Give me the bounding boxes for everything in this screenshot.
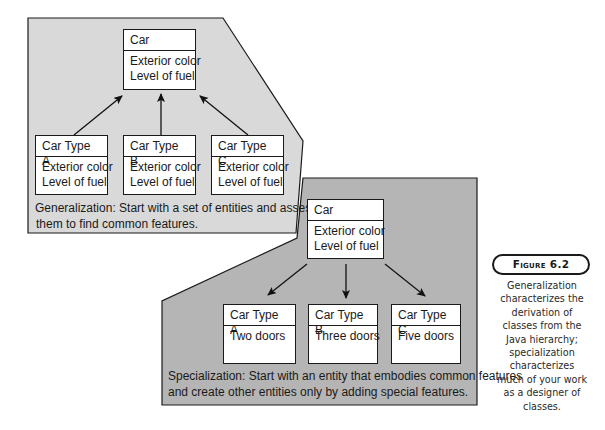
specialization-caption: Specialization: Start with an entity tha… bbox=[168, 369, 522, 400]
description-line: as a designer of bbox=[486, 386, 598, 399]
class-attribute: Exterior color bbox=[218, 160, 277, 175]
description-line: characterizes the bbox=[486, 292, 598, 305]
class-attribute: Level of fuel bbox=[130, 175, 189, 190]
description-line: Java hierarchy; bbox=[486, 333, 598, 346]
gen-car-type-a-box: Car Type A Exterior color Level of fuel bbox=[35, 135, 108, 195]
gen-car-type-c-box: Car Type C Exterior color Level of fuel bbox=[211, 135, 284, 195]
class-attribute: Exterior color bbox=[130, 54, 189, 69]
class-title: Car Type A bbox=[36, 136, 107, 157]
class-title: Car bbox=[308, 200, 383, 221]
class-attribute: Exterior color bbox=[42, 160, 101, 175]
class-title: Car bbox=[124, 30, 195, 51]
figure-description: Generalization characterizes the derivat… bbox=[486, 279, 598, 413]
class-attribute: Exterior color bbox=[130, 160, 189, 175]
generalization-caption: Generalization: Start with a set of enti… bbox=[35, 201, 317, 232]
description-line: characterizes bbox=[486, 359, 598, 372]
description-line: much of your work bbox=[486, 373, 598, 386]
description-line: Generalization bbox=[486, 279, 598, 292]
description-line: classes. bbox=[486, 400, 598, 413]
spec-car-type-c-box: Car Type C Five doors bbox=[391, 304, 461, 364]
class-title: Car Type B bbox=[309, 305, 377, 326]
description-line: specialization bbox=[486, 346, 598, 359]
caption-line: Generalization: Start with a set of enti… bbox=[35, 201, 317, 217]
gen-car-type-b-box: Car Type B Exterior color Level of fuel bbox=[123, 135, 196, 195]
gen-car-box: Car Exterior color Level of fuel bbox=[123, 29, 196, 90]
description-line: derivation of bbox=[486, 306, 598, 319]
class-title: Car Type A bbox=[224, 305, 295, 326]
class-attribute: Level of fuel bbox=[42, 175, 101, 190]
class-attribute: Exterior color bbox=[314, 224, 377, 239]
class-attribute: Level of fuel bbox=[130, 69, 189, 84]
class-title: Car Type B bbox=[124, 136, 195, 157]
class-attribute: Two doors bbox=[230, 329, 289, 344]
spec-car-box: Car Exterior color Level of fuel bbox=[307, 199, 384, 259]
class-attribute: Level of fuel bbox=[314, 239, 377, 254]
class-title: Car Type C bbox=[392, 305, 460, 326]
caption-line: and create other entities only by adding… bbox=[168, 385, 522, 401]
class-attribute: Level of fuel bbox=[218, 175, 277, 190]
spec-car-type-a-box: Car Type A Two doors bbox=[223, 304, 296, 364]
class-attribute: Five doors bbox=[398, 329, 454, 344]
class-title: Car Type C bbox=[212, 136, 283, 157]
class-attribute: Three doors bbox=[315, 329, 371, 344]
caption-line: them to find common features. bbox=[35, 217, 317, 233]
figure-label: Figure 6.2 bbox=[492, 254, 590, 275]
caption-line: Specialization: Start with an entity tha… bbox=[168, 369, 522, 385]
description-line: classes from the bbox=[486, 319, 598, 332]
spec-car-type-b-box: Car Type B Three doors bbox=[308, 304, 378, 364]
